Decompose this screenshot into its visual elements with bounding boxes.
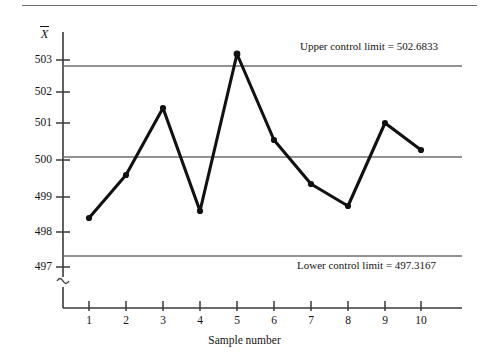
data-point: [86, 215, 92, 221]
y-tick-label: 501: [20, 116, 52, 128]
x-tick-label: 3: [151, 314, 175, 326]
data-point: [160, 105, 166, 111]
x-tick-label: 9: [373, 314, 397, 326]
x-tick-label: 10: [409, 314, 433, 326]
y-tick-label: 502: [20, 85, 52, 97]
x-tick-label: 7: [299, 314, 323, 326]
x-axis-title: Sample number: [0, 334, 489, 346]
data-point: [234, 51, 241, 58]
data-point-markers: [86, 51, 424, 222]
data-point: [382, 120, 388, 126]
x-tick-label: 2: [114, 314, 138, 326]
lower-control-limit-caption: Lower control limit = 497.3167: [297, 259, 436, 271]
axis-break-squiggle-icon: [57, 279, 69, 284]
y-tick-label: 498: [20, 225, 52, 237]
data-point: [197, 208, 203, 214]
data-series-line: [89, 54, 421, 218]
x-tick-label: 5: [225, 314, 249, 326]
y-tick-label: 500: [20, 153, 52, 165]
x-tick-label: 4: [188, 314, 212, 326]
upper-control-limit-caption: Upper control limit = 502.6833: [300, 40, 438, 52]
x-tick-label: 6: [262, 314, 286, 326]
data-point: [308, 181, 314, 187]
x-tick-marks: [89, 301, 421, 311]
y-tick-label: 497: [20, 260, 52, 272]
x-tick-label: 1: [77, 314, 101, 326]
x-tick-label: 8: [336, 314, 360, 326]
data-point: [345, 203, 351, 209]
data-point: [271, 137, 277, 143]
control-chart-figure: X: [0, 0, 489, 364]
y-tick-label: 499: [20, 190, 52, 202]
chart-canvas: [0, 0, 489, 364]
y-tick-label: 503: [20, 53, 52, 65]
data-point: [418, 147, 424, 153]
data-point: [123, 172, 129, 178]
